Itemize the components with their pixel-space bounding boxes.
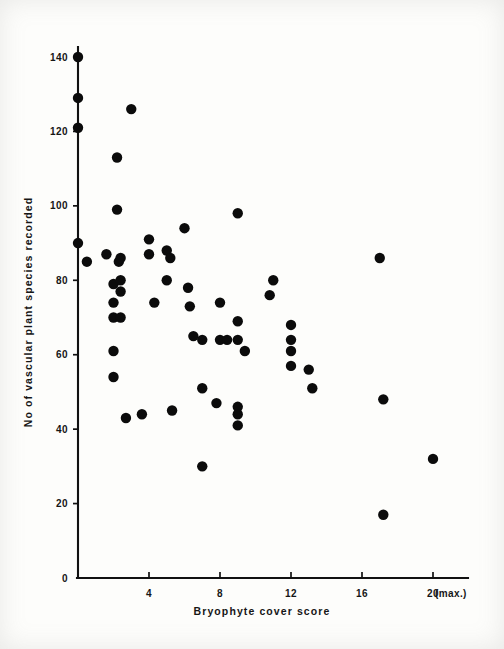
y-tick-label: 20 [56, 498, 68, 509]
data-point [108, 297, 118, 307]
data-point [378, 510, 388, 520]
data-point [137, 409, 147, 419]
data-point [179, 223, 189, 233]
data-point [112, 204, 122, 214]
data-point [73, 123, 83, 133]
data-point [375, 253, 385, 263]
data-point [165, 253, 175, 263]
data-point [73, 238, 83, 248]
data-point [101, 249, 111, 259]
data-point [115, 286, 125, 296]
x-axis-title: Bryophyte cover score [194, 605, 331, 617]
data-point [183, 283, 193, 293]
data-point [211, 398, 221, 408]
data-point [240, 346, 250, 356]
data-point [149, 297, 159, 307]
x-tick-label: 4 [146, 588, 152, 599]
y-tick-label: 60 [56, 349, 68, 360]
y-tick-label: 100 [50, 200, 68, 211]
data-point [115, 312, 125, 322]
data-point [233, 420, 243, 430]
data-point [215, 297, 225, 307]
data-point [108, 372, 118, 382]
y-tick-label: 140 [50, 52, 68, 63]
x-tick-label: 16 [356, 588, 368, 599]
data-point [286, 335, 296, 345]
data-point [233, 409, 243, 419]
data-point [167, 405, 177, 415]
data-point [115, 275, 125, 285]
data-point [304, 364, 314, 374]
data-point [197, 335, 207, 345]
x-tick-label: 8 [217, 588, 223, 599]
data-point [144, 249, 154, 259]
data-point [144, 234, 154, 244]
data-point [112, 152, 122, 162]
data-point [428, 454, 438, 464]
y-axis-title: No of vascular plant species recorded [22, 197, 34, 427]
data-point [115, 253, 125, 263]
data-point [73, 52, 83, 62]
data-point [82, 256, 92, 266]
data-point [222, 335, 232, 345]
x-tick-label: 12 [285, 588, 297, 599]
x-axis-ticks: 48121620 [146, 572, 439, 599]
y-tick-label: 80 [56, 275, 68, 286]
data-point [233, 335, 243, 345]
data-point [188, 331, 198, 341]
data-point [233, 316, 243, 326]
y-tick-label: 120 [50, 126, 68, 137]
data-point [197, 461, 207, 471]
data-point [286, 320, 296, 330]
data-point-group [73, 52, 438, 520]
data-point [268, 275, 278, 285]
data-point [286, 346, 296, 356]
data-point [197, 383, 207, 393]
data-point [121, 413, 131, 423]
data-point [162, 275, 172, 285]
y-tick-label: 0 [62, 573, 68, 584]
data-point [378, 394, 388, 404]
data-point [185, 301, 195, 311]
plot-canvas: 020406080100120140 48121620 Bryophyte co… [0, 0, 504, 649]
data-point [108, 346, 118, 356]
data-point [233, 208, 243, 218]
y-tick-label: 40 [56, 424, 68, 435]
data-point [73, 93, 83, 103]
scatter-plot-figure: 020406080100120140 48121620 Bryophyte co… [0, 0, 504, 649]
data-point [126, 104, 136, 114]
data-point [307, 383, 317, 393]
data-point [265, 290, 275, 300]
data-point [286, 361, 296, 371]
x-axis-max-note: (max.) [435, 588, 467, 599]
